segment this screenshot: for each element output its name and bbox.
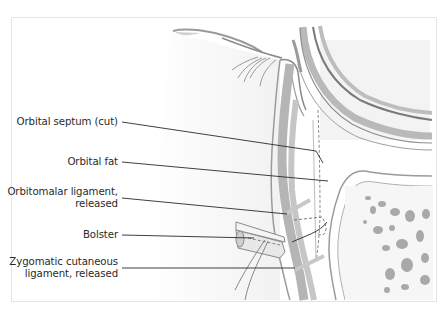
label-orbital-septum: Orbital septum (cut) xyxy=(17,116,118,128)
label-bolster: Bolster xyxy=(83,229,118,241)
skin-shading xyxy=(150,30,280,300)
label-line: Orbital fat xyxy=(67,156,118,168)
label-line: Orbital septum (cut) xyxy=(17,116,118,128)
label-line: Orbitomalar ligament, xyxy=(7,186,118,198)
label-line: Bolster xyxy=(83,229,118,241)
orbital-septum xyxy=(316,110,320,260)
label-orbitomalar-ligament: Orbitomalar ligament, released xyxy=(7,186,118,210)
label-line: ligament, released xyxy=(9,268,118,280)
label-line: Zygomatic cutaneous xyxy=(9,256,118,268)
label-line: released xyxy=(7,198,118,210)
label-zygomatic-cutaneous-ligament: Zygomatic cutaneous ligament, released xyxy=(9,256,118,280)
label-orbital-fat: Orbital fat xyxy=(67,156,118,168)
